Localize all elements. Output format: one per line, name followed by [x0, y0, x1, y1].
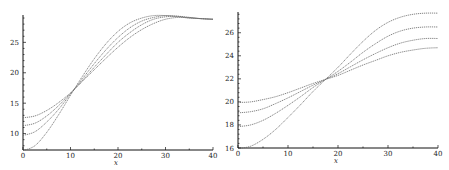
y-tick-label: 18 — [225, 121, 234, 129]
x-tick-label: 40 — [209, 152, 218, 160]
y-tick-label: 22 — [225, 75, 234, 83]
x-axis-label: x — [114, 159, 118, 167]
x-tick-label: 40 — [434, 150, 443, 158]
x-tick-label: 0 — [236, 150, 240, 158]
x-tick-label: 10 — [66, 152, 75, 160]
x-tick-label: 30 — [161, 152, 170, 160]
y-tick-label: 24 — [225, 52, 234, 60]
x-tick-label: 10 — [284, 150, 293, 158]
x-axis-label: x — [334, 157, 338, 165]
x-tick-label: 30 — [384, 150, 393, 158]
y-tick-label: 10 — [10, 130, 19, 138]
y-tick-label: 25 — [10, 39, 19, 47]
y-tick-label: 20 — [10, 69, 19, 77]
series-line-curve-1 — [23, 17, 213, 118]
series-line-curve-3 — [23, 16, 213, 136]
series-line-curve-3 — [238, 27, 438, 127]
chart-left: 010203040x10152025 — [10, 15, 217, 167]
y-tick-label: 16 — [225, 145, 234, 153]
y-tick-label: 26 — [225, 29, 234, 37]
series-line-curve-2 — [23, 16, 213, 125]
y-tick-label: 20 — [225, 98, 234, 106]
series-line-curve-4 — [23, 15, 213, 150]
series-line-curve-1 — [238, 48, 438, 103]
chart-right: 010203040x161820222426 — [225, 12, 442, 165]
x-tick-label: 0 — [21, 152, 25, 160]
chart-canvas: 010203040x10152025 010203040x16182022242… — [0, 0, 449, 170]
y-tick-label: 15 — [10, 100, 19, 108]
series-line-curve-4 — [238, 13, 438, 149]
